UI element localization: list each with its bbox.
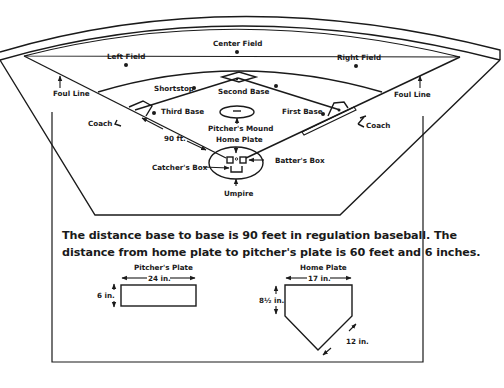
label-ninety-ft: 90 ft. [164, 134, 186, 143]
label-coach-left: Coach [88, 119, 112, 128]
label-coach-right: Coach [366, 121, 390, 130]
baseball-field-diagram: Left Field Center Field Right Field Shor… [0, 0, 504, 388]
home-plate-width: 17 in. [308, 274, 331, 283]
label-center-field: Center Field [213, 39, 262, 48]
label-first-base: First Base [282, 107, 323, 116]
pitchers-mound [220, 106, 254, 118]
ninety-ft-arrow-up [142, 118, 163, 129]
batters-box-right [240, 157, 246, 163]
pitchers-plate-width: 24 in. [148, 274, 171, 283]
label-home-plate: Home Plate [216, 135, 263, 144]
second-baseman-dot [274, 84, 278, 88]
label-left-field: Left Field [107, 52, 145, 61]
label-right-field: Right Field [337, 53, 381, 62]
second-base [222, 72, 256, 82]
home-plate-diagonal: 12 in. [346, 337, 369, 346]
label-foul-line-left: Foul Line [53, 89, 90, 98]
label-umpire: Umpire [224, 189, 253, 198]
catchers-box [231, 166, 242, 172]
third-baseman-dot [152, 111, 156, 115]
label-pitchers-mound: Pitcher's Mound [208, 124, 273, 133]
home-plate-shape [285, 285, 352, 350]
batters-box-left [227, 157, 233, 163]
left-fielder-dot [124, 63, 128, 67]
coach-box-left [115, 120, 121, 126]
center-fielder-dot [235, 50, 239, 54]
pitchers-plate-rect [121, 285, 196, 306]
right-fielder-dot [354, 64, 358, 68]
home-plate-title: Home Plate [300, 263, 347, 272]
label-catchers-box: Catcher's Box [152, 163, 208, 172]
label-shortstop: Shortstop [154, 84, 194, 93]
home-plate-side: 8½ in. [259, 296, 284, 305]
coach-box-right [358, 116, 366, 127]
label-batters-box: Batter's Box [275, 156, 325, 165]
label-third-base: Third Base [161, 107, 204, 116]
description-text: The distance base to base is 90 feet in … [62, 227, 482, 261]
pitchers-plate-height: 6 in. [97, 291, 115, 300]
label-second-base: Second Base [218, 87, 270, 96]
label-foul-line-right: Foul Line [394, 90, 431, 99]
pitchers-plate-title: Pitcher's Plate [134, 263, 193, 272]
